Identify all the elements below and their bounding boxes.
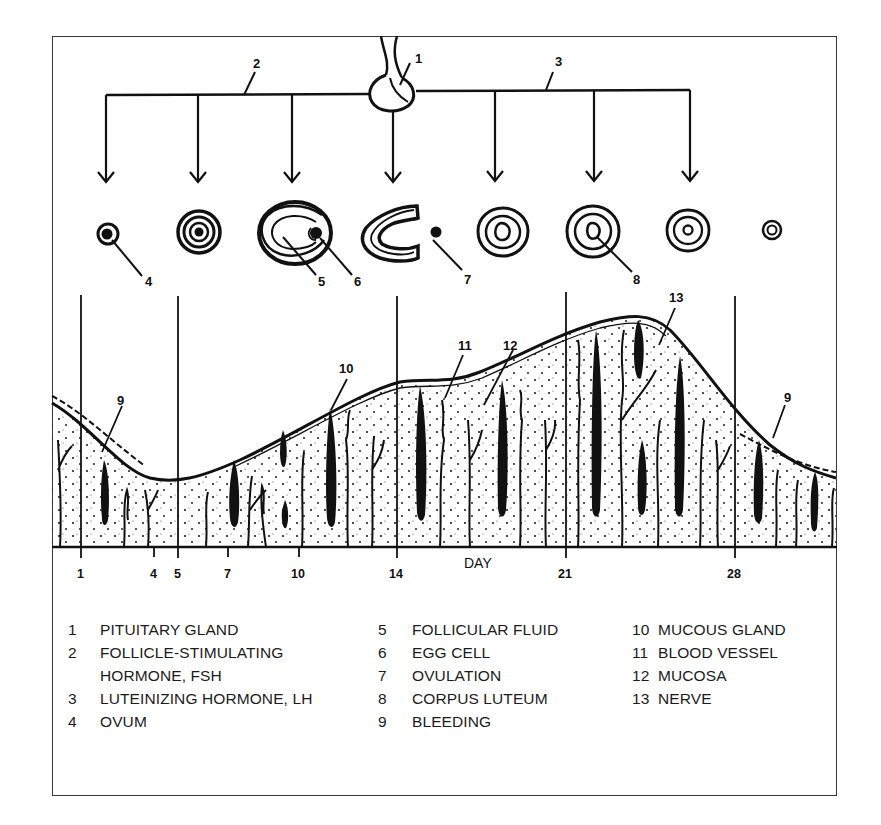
label-mucous-gland: 10 bbox=[339, 361, 353, 376]
follicle-stages: 4 5 6 7 8 bbox=[98, 202, 781, 289]
hormone-tree: 1 2 3 bbox=[98, 36, 698, 182]
tick-day-28: 28 bbox=[727, 567, 741, 581]
label-blood-vessel: 11 bbox=[458, 338, 472, 353]
corpus-luteum-icon-2 bbox=[567, 206, 632, 272]
label-pituitary: 1 bbox=[415, 51, 422, 66]
tick-day-14: 14 bbox=[389, 567, 403, 581]
legend-column-1: 1PITUITARY GLAND 2FOLLICLE-STIMULATING H… bbox=[68, 618, 312, 733]
legend-item: 4OVUM bbox=[68, 710, 312, 733]
legend-column-3: 10MUCOUS GLAND 11BLOOD VESSEL 12MUCOSA 1… bbox=[632, 618, 786, 710]
legend-item: 9BLEEDING bbox=[378, 710, 558, 733]
corpus-luteum-icon-3 bbox=[667, 210, 709, 251]
tick-day-5: 5 bbox=[174, 567, 181, 581]
label-mucosa: 12 bbox=[503, 338, 517, 353]
legend-item: 11BLOOD VESSEL bbox=[632, 641, 786, 664]
legend-item: 3LUTEINIZING HORMONE, LH bbox=[68, 687, 312, 710]
legend-item: 2FOLLICLE-STIMULATING bbox=[68, 641, 312, 664]
legend-item: 13NERVE bbox=[632, 687, 786, 710]
label-lh: 3 bbox=[555, 54, 562, 69]
label-follicular-fluid: 5 bbox=[318, 274, 325, 289]
legend-item: 6EGG CELL bbox=[378, 641, 558, 664]
pituitary-gland-icon bbox=[370, 75, 414, 111]
tick-day-7: 7 bbox=[224, 567, 231, 581]
tick-day-1: 1 bbox=[77, 567, 84, 581]
label-nerve: 13 bbox=[669, 290, 683, 305]
uterine-mucosa: 9 10 11 12 13 9 bbox=[52, 290, 837, 548]
label-ovulation: 7 bbox=[464, 272, 471, 287]
tick-day-4: 4 bbox=[150, 567, 157, 581]
corpus-luteum-icon-1 bbox=[478, 208, 528, 256]
legend-item: 7OVULATION bbox=[378, 664, 558, 687]
tick-day-10: 10 bbox=[291, 567, 305, 581]
legend-item: 12MUCOSA bbox=[632, 664, 786, 687]
label-corpus-luteum: 8 bbox=[633, 272, 640, 287]
label-bleeding-left: 9 bbox=[117, 393, 124, 408]
ovum-icon bbox=[98, 224, 142, 276]
corpus-albicans-icon bbox=[763, 221, 781, 239]
label-egg-cell: 6 bbox=[354, 274, 361, 289]
graafian-follicle-icon bbox=[259, 202, 352, 275]
tick-day-21: 21 bbox=[558, 567, 572, 581]
ruptured-follicle-icon: 7 bbox=[362, 206, 471, 287]
legend-item: 5FOLLICULAR FLUID bbox=[378, 618, 558, 641]
label-bleeding-right: 9 bbox=[784, 390, 791, 405]
legend-item: 1PITUITARY GLAND bbox=[68, 618, 312, 641]
legend-item: 10MUCOUS GLAND bbox=[632, 618, 786, 641]
label-fsh: 2 bbox=[253, 56, 260, 71]
axis-label-day: DAY bbox=[464, 555, 492, 571]
label-ovum: 4 bbox=[145, 274, 153, 289]
legend-item: 8CORPUS LUTEUM bbox=[378, 687, 558, 710]
primary-follicle-icon bbox=[178, 211, 220, 253]
legend-item: HORMONE, FSH bbox=[68, 664, 312, 687]
pituitary-stalk bbox=[381, 36, 387, 75]
legend-column-2: 5FOLLICULAR FLUID 6EGG CELL 7OVULATION 8… bbox=[378, 618, 558, 733]
